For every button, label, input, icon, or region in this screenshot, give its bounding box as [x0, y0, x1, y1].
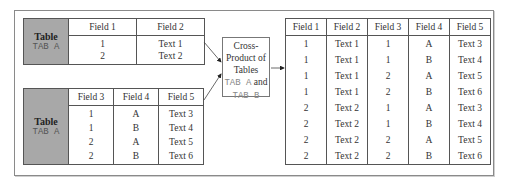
table-row: 2Text 22BText 6 — [286, 148, 491, 165]
cell: Text 2 — [327, 148, 368, 165]
cell: B — [409, 148, 450, 165]
cell: Text 4 — [450, 116, 491, 132]
cell: A — [409, 132, 450, 148]
cell: Text 1 — [327, 36, 368, 53]
column-header: Field 1 — [286, 19, 327, 36]
cell: Text 4 — [450, 52, 491, 68]
cell: 1 — [286, 52, 327, 68]
cell: Text 6 — [450, 84, 491, 100]
cell: 2 — [286, 116, 327, 132]
cell: Text 1 — [327, 84, 368, 100]
cell: 1 — [368, 100, 409, 116]
table-row: 2Text 21BText 4 — [286, 116, 491, 132]
cell: A — [409, 68, 450, 84]
cell: 2 — [286, 148, 327, 165]
cell: 1 — [286, 68, 327, 84]
table-row: 1Text 11AText 3 — [286, 36, 491, 53]
cell: 2 — [368, 132, 409, 148]
cell: B — [409, 116, 450, 132]
cell: 1 — [368, 116, 409, 132]
cell: A — [409, 100, 450, 116]
table-result: Field 1 Field 2 Field 3 Field 4 Field 5 … — [285, 18, 491, 165]
cell: 2 — [368, 148, 409, 165]
cell: Text 2 — [327, 100, 368, 116]
cell: Text 2 — [327, 116, 368, 132]
cell: Text 5 — [450, 132, 491, 148]
cell: Text 6 — [450, 148, 491, 165]
cell: Text 3 — [450, 100, 491, 116]
cell: 2 — [368, 84, 409, 100]
cell: Text 3 — [450, 36, 491, 53]
cell: 2 — [286, 100, 327, 116]
cell: Text 5 — [450, 68, 491, 84]
table-row: 1Text 12AText 5 — [286, 68, 491, 84]
cell: Text 1 — [327, 52, 368, 68]
column-header: Field 4 — [409, 19, 450, 36]
table-row: 2Text 22AText 5 — [286, 132, 491, 148]
cell: A — [409, 36, 450, 53]
cell: Text 2 — [327, 132, 368, 148]
table-row: 2Text 21AText 3 — [286, 100, 491, 116]
cell: 2 — [368, 68, 409, 84]
cell: 1 — [286, 84, 327, 100]
column-header: Field 5 — [450, 19, 491, 36]
cell: 1 — [368, 36, 409, 53]
cell: Text 1 — [327, 68, 368, 84]
cell: B — [409, 52, 450, 68]
table-row: 1Text 12BText 6 — [286, 84, 491, 100]
arrow-icon — [204, 42, 221, 62]
table-row: 1Text 11BText 4 — [286, 52, 491, 68]
cell: B — [409, 84, 450, 100]
column-header: Field 3 — [368, 19, 409, 36]
cell: 1 — [286, 36, 327, 53]
column-header: Field 2 — [327, 19, 368, 36]
cell: 1 — [368, 52, 409, 68]
cell: 2 — [286, 132, 327, 148]
arrow-icon — [204, 74, 221, 100]
